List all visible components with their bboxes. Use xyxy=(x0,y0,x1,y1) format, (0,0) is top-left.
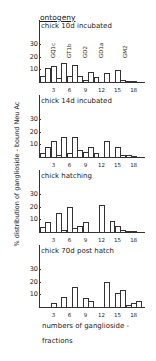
panel-title: chick 70d post hatch xyxy=(41,247,114,255)
x-axis-label-line1: numbers of ganglioside - xyxy=(42,322,129,330)
bar xyxy=(94,77,100,82)
bar xyxy=(131,231,137,232)
bar xyxy=(94,153,100,157)
ganglioside-label: GD2 xyxy=(82,46,88,58)
x-axis xyxy=(39,307,145,308)
x-tick-label: 12 xyxy=(96,87,108,93)
x-tick-label: 9 xyxy=(79,312,91,318)
x-tick-label: 6 xyxy=(63,312,75,318)
x-tick-label: 3 xyxy=(47,312,59,318)
bar xyxy=(99,205,105,233)
bar xyxy=(104,73,110,82)
x-tick-label: 3 xyxy=(47,87,59,93)
y-tick-label: 30 xyxy=(26,40,38,48)
y-axis-label: % distribution of ganglioside - bound Ne… xyxy=(13,79,21,269)
y-tick-label: 10 xyxy=(26,65,38,73)
x-tick-label: 9 xyxy=(79,162,91,168)
y-tick-label: 10 xyxy=(26,290,38,298)
x-axis xyxy=(39,157,145,158)
ganglioside-label: GQ1c xyxy=(50,43,56,58)
x-tick-label: 18 xyxy=(128,162,140,168)
x-tick-label: 3 xyxy=(47,162,59,168)
panel-title: chick 14d incubated xyxy=(41,97,112,105)
x-tick-label: 6 xyxy=(63,162,75,168)
ganglioside-label: GT1b xyxy=(66,44,72,58)
x-tick-label: 9 xyxy=(79,87,91,93)
y-tick-label: 20 xyxy=(26,203,38,211)
y-axis xyxy=(39,170,40,233)
x-axis xyxy=(39,82,145,83)
bar xyxy=(61,297,67,307)
bar xyxy=(136,301,142,307)
y-tick-label: 20 xyxy=(26,278,38,286)
x-axis xyxy=(39,232,145,233)
x-tick-label: 6 xyxy=(63,237,75,243)
panel-title: chick hatching xyxy=(41,172,92,180)
bar xyxy=(131,156,137,157)
x-tick-label: 12 xyxy=(96,237,108,243)
bar xyxy=(45,222,51,232)
bar xyxy=(104,141,110,157)
y-tick-label: 30 xyxy=(26,115,38,123)
y-axis xyxy=(39,245,40,308)
y-tick-label: 20 xyxy=(26,128,38,136)
chart-title: ontogeny xyxy=(40,13,75,22)
y-axis xyxy=(39,95,40,158)
x-axis-label-line2: fractions xyxy=(42,337,73,345)
y-tick-label: 30 xyxy=(26,265,38,273)
panel-title: chick 10d incubated xyxy=(41,22,112,30)
x-tick-label: 6 xyxy=(63,87,75,93)
y-tick-label: 10 xyxy=(26,140,38,148)
bar xyxy=(104,282,110,307)
bar xyxy=(88,301,94,307)
x-tick-label: 15 xyxy=(112,87,124,93)
x-tick-label: 15 xyxy=(112,312,124,318)
x-tick-label: 18 xyxy=(128,87,140,93)
y-axis xyxy=(39,20,40,83)
x-tick-label: 9 xyxy=(79,237,91,243)
bar xyxy=(131,81,137,82)
x-tick-label: 18 xyxy=(128,237,140,243)
bar xyxy=(51,303,57,307)
x-tick-label: 12 xyxy=(96,162,108,168)
y-tick-label: 30 xyxy=(26,190,38,198)
ganglioside-label: GD1a xyxy=(98,43,104,58)
x-tick-label: 15 xyxy=(112,162,124,168)
x-tick-label: 15 xyxy=(112,237,124,243)
y-tick-label: 20 xyxy=(26,53,38,61)
x-tick-label: 18 xyxy=(128,312,140,318)
x-tick-label: 3 xyxy=(47,237,59,243)
ganglioside-label: GM2 xyxy=(122,45,128,58)
x-tick-label: 12 xyxy=(96,312,108,318)
bar xyxy=(72,287,78,307)
y-tick-label: 10 xyxy=(26,215,38,223)
bar xyxy=(83,222,89,232)
